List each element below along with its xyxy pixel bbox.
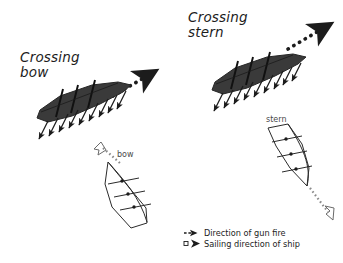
mast-dot (294, 167, 297, 170)
white-ship-end-label: stern (266, 115, 286, 124)
panel-title-line2: stern (188, 24, 224, 40)
mast-dot (132, 205, 135, 208)
mast-dot (120, 179, 123, 182)
panel-title-line1: Crossing (188, 9, 248, 25)
naval-crossing-diagram: Crossing bow (0, 0, 343, 263)
legend-label: Direction of gun fire (204, 228, 286, 238)
panel-title-line1: Crossing (20, 49, 80, 65)
mast-dot (284, 137, 287, 140)
outlined-square-icon (184, 242, 188, 246)
panel-title-line2: bow (20, 64, 49, 80)
mast-dot (126, 192, 129, 195)
white-ship-end-label: bow (117, 150, 134, 159)
mast-dot (289, 152, 292, 155)
legend-label: Sailing direction of ship (204, 239, 300, 249)
